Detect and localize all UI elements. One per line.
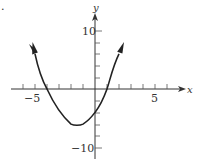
curve-left-arrowhead-icon: [32, 42, 38, 55]
parabola-graph: . −5 5 x: [0, 0, 205, 162]
x-tick-label-neg5: −5: [24, 92, 40, 105]
curve-right-arrowhead-icon: [117, 42, 124, 54]
x-tick-label-5: 5: [151, 92, 158, 105]
corner-mark: .: [1, 0, 5, 13]
x-axis-label: x: [187, 84, 193, 95]
y-tick-label-neg10: −10: [71, 142, 94, 155]
y-axis: 10 −10 y: [71, 2, 102, 159]
y-axis-label: y: [92, 2, 99, 13]
y-tick-label-10: 10: [82, 25, 96, 38]
